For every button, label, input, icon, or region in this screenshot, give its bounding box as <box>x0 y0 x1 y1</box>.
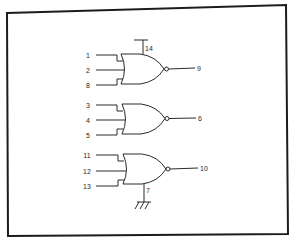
nor-gate-2: 3 4 5 6 <box>86 102 202 139</box>
output-label: 6 <box>198 115 202 122</box>
ground-pin-label: 7 <box>146 187 150 194</box>
input-label-2: 12 <box>83 168 91 175</box>
inversion-bubble <box>166 167 170 171</box>
nor-gate-body <box>122 104 165 134</box>
output-label: 9 <box>197 65 201 72</box>
input-wire-3 <box>96 129 123 135</box>
output-wire <box>169 68 196 69</box>
input-label-3: 5 <box>86 132 90 139</box>
ground-icon <box>135 202 151 209</box>
nor-gate-1: 14 1 2 8 9 <box>86 40 201 89</box>
input-label-2: 4 <box>86 117 90 124</box>
input-wire-3 <box>96 180 124 186</box>
output-label: 10 <box>200 165 208 172</box>
input-wire-1 <box>96 155 124 161</box>
inversion-bubble <box>165 67 169 71</box>
output-wire <box>170 168 198 169</box>
nor-gate-body <box>123 154 166 184</box>
nor-gate-3: 11 12 13 10 7 <box>83 152 208 209</box>
input-label-2: 2 <box>86 67 90 74</box>
input-label-1: 1 <box>86 52 90 59</box>
input-wire-1 <box>96 105 123 111</box>
schematic-canvas: 14 1 2 8 9 3 4 5 6 11 12 13 <box>0 0 294 239</box>
power-pin-label: 14 <box>145 45 153 52</box>
input-label-1: 11 <box>83 152 90 159</box>
input-wire-3 <box>96 79 123 85</box>
input-label-1: 3 <box>86 102 90 109</box>
inversion-bubble <box>165 117 169 121</box>
input-wire-1 <box>96 55 123 61</box>
output-wire <box>169 118 196 119</box>
input-label-3: 8 <box>86 82 90 89</box>
nor-gate-body <box>121 54 164 84</box>
input-label-3: 13 <box>83 183 91 190</box>
